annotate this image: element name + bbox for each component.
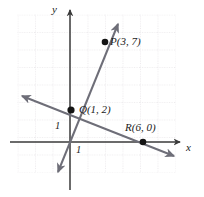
- x-axis-label: x: [186, 142, 191, 153]
- point-label-p: P(3, 7): [110, 36, 141, 47]
- point-p: [102, 39, 109, 46]
- y-axis-tick-label-1: 1: [55, 121, 60, 132]
- point-r: [140, 139, 147, 146]
- x-axis-tick-label-1: 1: [76, 145, 81, 156]
- coordinate-plane-figure: P(3, 7) Q(1, 2) R(6, 0) y x 1 1: [0, 0, 204, 197]
- point-label-r: R(6, 0): [125, 122, 156, 133]
- point-label-q: Q(1, 2): [79, 104, 111, 115]
- graph-canvas: [0, 0, 204, 197]
- y-axis-label: y: [52, 4, 57, 15]
- point-q: [67, 106, 74, 113]
- grid-lines: [18, 15, 176, 173]
